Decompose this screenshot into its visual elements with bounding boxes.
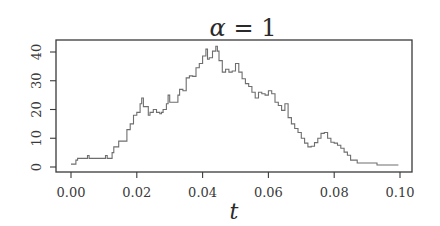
y-tick-label: 10: [29, 130, 44, 147]
x-tick-label: 0.00: [57, 185, 86, 200]
x-tick-label: 0.06: [254, 185, 283, 200]
title-alpha-symbol: α: [210, 14, 226, 42]
plot-area-frame: [56, 40, 412, 172]
y-tick-label: 30: [29, 72, 44, 89]
x-tick-label: 0.04: [188, 185, 217, 200]
y-tick-label: 0: [29, 163, 44, 171]
x-tick-label: 0.02: [122, 185, 151, 200]
title-equals-value: = 1: [226, 14, 277, 42]
y-axis: 010203040: [29, 44, 56, 171]
chart-canvas: α = 1 010203040 0.000.020.040.060.080.10…: [0, 0, 440, 226]
x-axis-label: t: [230, 199, 239, 224]
y-tick-label: 20: [29, 101, 44, 118]
chart-title: α = 1: [210, 14, 277, 42]
x-tick-label: 0.08: [320, 185, 349, 200]
series-line: [71, 46, 398, 165]
x-axis: 0.000.020.040.060.080.10: [57, 172, 415, 200]
y-tick-label: 40: [29, 44, 44, 61]
x-tick-label: 0.10: [386, 185, 415, 200]
chart: α = 1 010203040 0.000.020.040.060.080.10…: [0, 0, 440, 226]
